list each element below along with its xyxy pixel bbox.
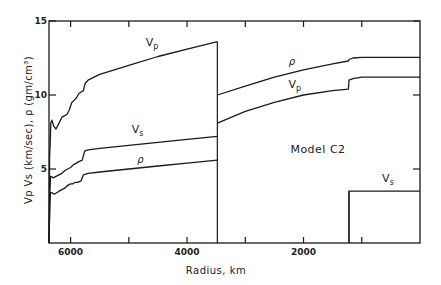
y-tick-label: 10 <box>34 90 47 100</box>
curve-rho-core <box>217 57 420 95</box>
curve-label: Vs <box>132 123 144 138</box>
y-tick-label: 15 <box>34 16 47 26</box>
x-axis-ticks: 600040002000 <box>58 21 362 257</box>
curve-label: Vp <box>146 36 159 51</box>
y-axis-title: Vp Vs (km/sec), ρ (gm/cm³) <box>23 56 34 204</box>
y-axis-ticks: 51015 <box>34 16 420 174</box>
plot-area-border <box>49 21 420 243</box>
curve-label: ρ <box>137 154 144 165</box>
model-label: Model C2 <box>290 143 345 156</box>
curve-rho <box>49 160 217 243</box>
curve-label: Vs <box>382 172 394 187</box>
curve-vp <box>49 42 217 243</box>
curve-vs-inner-core <box>349 191 420 243</box>
chart: 600040002000 51015 VpVsρρVpVs Radius, km… <box>0 0 441 285</box>
curve-vp-core <box>217 77 420 123</box>
plot-frame <box>49 21 420 243</box>
curve-vs <box>49 136 217 243</box>
curve-label: Vp <box>288 78 301 93</box>
data-curves <box>49 42 420 243</box>
y-tick-label: 5 <box>41 164 47 174</box>
x-tick-label: 2000 <box>291 247 316 257</box>
x-tick-label: 6000 <box>58 247 83 257</box>
x-axis-title: Radius, km <box>186 265 246 276</box>
curve-label: ρ <box>289 56 296 67</box>
x-tick-label: 4000 <box>175 247 200 257</box>
